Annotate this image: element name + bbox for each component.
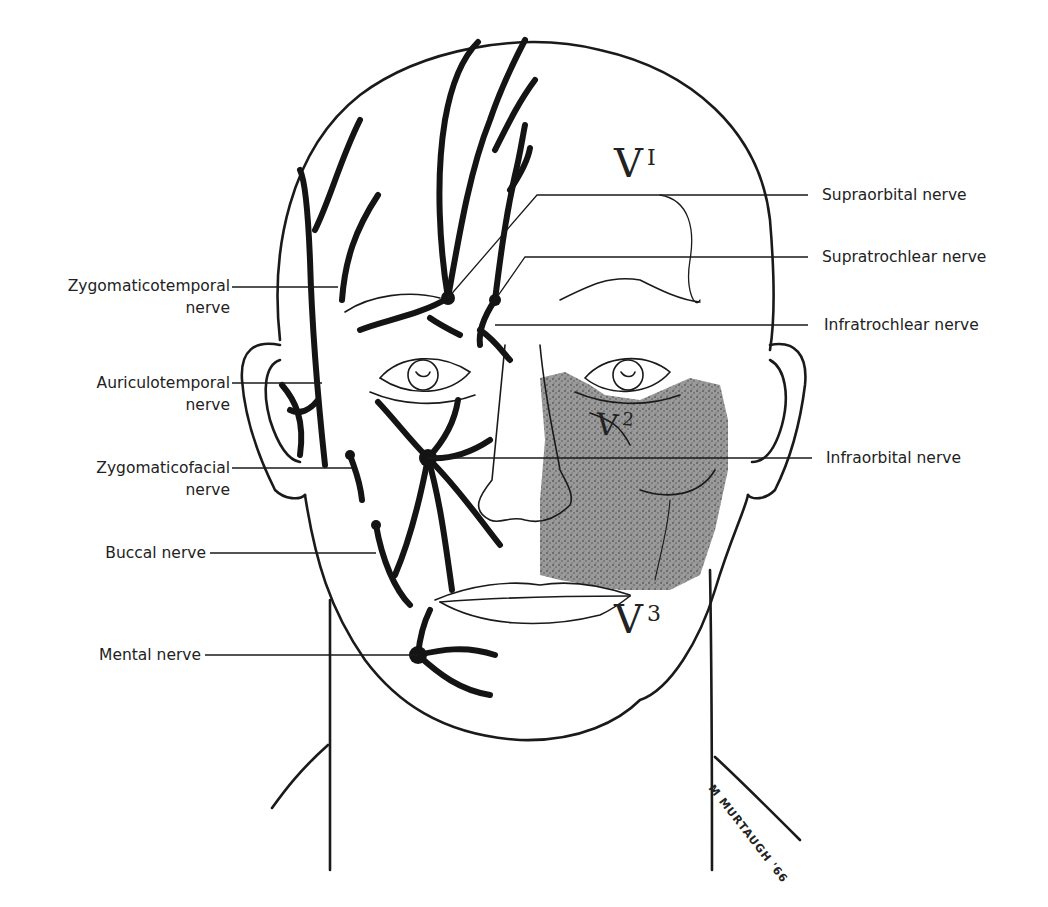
division-letter: V [614, 140, 643, 186]
label-line: Zygomaticotemporal [68, 275, 230, 297]
label-infraorbital-nerve: Infraorbital nerve [826, 447, 961, 469]
label-line: Buccal nerve [105, 542, 206, 564]
label-line: Auriculotemporal [97, 372, 230, 394]
label-supraorbital-nerve: Supraorbital nerve [822, 184, 967, 206]
label-line: Infraorbital nerve [826, 447, 961, 469]
label-line: Zygomaticofacial [96, 457, 230, 479]
label-line: nerve [97, 394, 230, 416]
facial-nerve-diagram: VI V2 V3 Zygomaticotemporal nerve Auricu… [0, 0, 1048, 907]
division-label-v1: VI [614, 140, 656, 186]
division-letter: V [614, 596, 643, 642]
label-zygomaticofacial-nerve: Zygomaticofacial nerve [96, 457, 230, 501]
label-line: Mental nerve [99, 644, 201, 666]
label-line: Supraorbital nerve [822, 184, 967, 206]
label-line: nerve [96, 479, 230, 501]
label-buccal-nerve: Buccal nerve [105, 542, 206, 564]
division-number: 3 [647, 601, 661, 626]
label-line: Supratrochlear nerve [822, 246, 986, 268]
division-label-v2: V2 [594, 406, 635, 445]
division-label-v3: V3 [614, 596, 661, 642]
label-line: Infratrochlear nerve [824, 314, 979, 336]
v2-sensory-region [540, 372, 728, 590]
division-letter: V [594, 406, 619, 443]
label-supratrochlear-nerve: Supratrochlear nerve [822, 246, 986, 268]
label-mental-nerve: Mental nerve [99, 644, 201, 666]
label-infratrochlear-nerve: Infratrochlear nerve [824, 314, 979, 336]
label-zygomaticotemporal-nerve: Zygomaticotemporal nerve [68, 275, 230, 319]
division-number: 2 [621, 408, 635, 430]
label-auriculotemporal-nerve: Auriculotemporal nerve [97, 372, 230, 416]
division-number: I [647, 145, 656, 170]
label-line: nerve [68, 297, 230, 319]
